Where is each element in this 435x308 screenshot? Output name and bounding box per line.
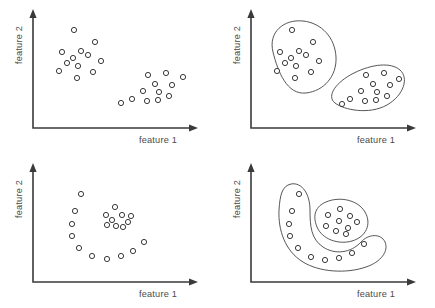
- y-axis-label: feature 2: [232, 26, 242, 64]
- data-point: [347, 96, 352, 101]
- data-point: [140, 88, 145, 93]
- data-point: [358, 88, 363, 93]
- data-point: [286, 221, 291, 226]
- data-point: [155, 97, 160, 102]
- data-point: [316, 58, 321, 63]
- data-point: [72, 208, 77, 213]
- data-point: [156, 89, 161, 94]
- data-point: [370, 81, 375, 86]
- data-point: [130, 248, 135, 253]
- data-point: [118, 100, 123, 105]
- axes-top-right: [247, 9, 416, 132]
- data-point: [287, 233, 292, 238]
- data-point: [113, 223, 118, 228]
- data-point: [180, 74, 185, 79]
- data-point: [104, 222, 109, 227]
- y-axis-arrow-icon: [29, 9, 36, 18]
- data-point: [337, 206, 342, 211]
- data-point: [322, 257, 327, 262]
- data-point: [129, 96, 134, 101]
- data-point: [163, 70, 168, 75]
- data-point: [71, 27, 76, 32]
- data-point: [112, 204, 117, 209]
- cluster-hulls-bottom-right: [279, 184, 386, 271]
- data-point: [308, 69, 313, 74]
- data-point: [92, 39, 97, 44]
- data-point: [118, 253, 123, 258]
- data-point: [363, 72, 368, 77]
- panel-bottom-left-svg: feature 1 feature 2: [0, 154, 217, 308]
- data-point: [361, 241, 366, 246]
- panel-top-left: feature 1 feature 2: [0, 0, 217, 154]
- data-point: [323, 223, 328, 228]
- panel-top-right-svg: feature 1 feature 2: [218, 0, 435, 154]
- y-axis-arrow-icon: [29, 163, 36, 172]
- x-axis-arrow-icon: [407, 278, 416, 285]
- data-point: [125, 219, 130, 224]
- data-point: [78, 48, 83, 53]
- y-axis-label: feature 2: [232, 180, 242, 218]
- y-axis-label: feature 2: [14, 180, 24, 218]
- panel-bottom-right-svg: feature 1 feature 2: [218, 154, 435, 308]
- data-point: [169, 82, 174, 87]
- data-point: [325, 212, 330, 217]
- data-point: [381, 70, 386, 75]
- data-point: [277, 49, 282, 54]
- data-point: [282, 60, 287, 65]
- data-point: [354, 219, 359, 224]
- data-point: [128, 213, 133, 218]
- x-axis-label: feature 1: [357, 289, 395, 299]
- data-point: [339, 101, 344, 106]
- data-point: [336, 255, 341, 260]
- data-point: [362, 98, 367, 103]
- data-point: [374, 89, 379, 94]
- x-axis-label: feature 1: [139, 289, 177, 299]
- clustering-illustration-figure: feature 1 feature 2: [0, 0, 435, 308]
- data-point: [289, 208, 294, 213]
- y-axis-label: feature 2: [14, 26, 24, 64]
- data-point: [308, 254, 313, 259]
- axis-lines: [251, 171, 408, 282]
- data-point: [78, 191, 83, 196]
- data-point: [384, 93, 389, 98]
- data-point: [345, 225, 350, 230]
- data-point: [89, 253, 94, 258]
- hull-crescent-cluster: [279, 184, 386, 271]
- data-point: [56, 68, 61, 73]
- data-point: [303, 52, 308, 57]
- scatter-points-top-right: [274, 27, 401, 106]
- data-point: [74, 75, 79, 80]
- data-point: [274, 68, 279, 73]
- data-point: [152, 81, 157, 86]
- data-point: [288, 55, 293, 60]
- data-point: [166, 93, 171, 98]
- axes-top-left: [29, 9, 198, 132]
- data-point: [90, 69, 95, 74]
- data-point: [373, 97, 378, 102]
- data-point: [310, 39, 315, 44]
- scatter-points-top-left: [56, 27, 185, 105]
- data-point: [145, 72, 150, 77]
- data-point: [296, 191, 301, 196]
- data-point: [103, 212, 108, 217]
- data-point: [70, 55, 75, 60]
- data-point: [289, 27, 294, 32]
- data-point: [336, 218, 341, 223]
- data-point: [119, 212, 124, 217]
- axes-bottom-right: [247, 163, 416, 286]
- data-point: [76, 245, 81, 250]
- panel-bottom-left: feature 1 feature 2: [0, 154, 217, 308]
- panel-top-left-svg: feature 1 feature 2: [0, 0, 217, 154]
- axis-lines: [33, 171, 190, 282]
- data-point: [120, 224, 125, 229]
- data-point: [141, 239, 146, 244]
- y-axis-arrow-icon: [247, 163, 254, 172]
- data-point: [293, 63, 298, 68]
- x-axis-arrow-icon: [189, 124, 198, 131]
- data-point: [292, 75, 297, 80]
- data-point: [104, 256, 109, 261]
- data-point: [347, 213, 352, 218]
- data-point: [333, 228, 338, 233]
- data-point: [144, 98, 149, 103]
- data-point: [343, 231, 348, 236]
